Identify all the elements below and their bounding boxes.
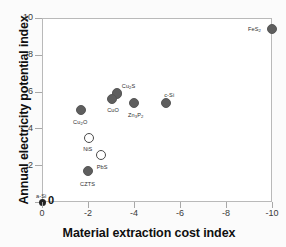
x-tick-label-m6: -6	[166, 208, 194, 218]
x-tick-label-m10: -10	[258, 208, 286, 218]
data-point-nis[interactable]	[84, 133, 94, 143]
x-tick-label-0: 0	[28, 208, 56, 218]
data-point-fes2[interactable]	[267, 24, 277, 34]
data-point-label-cu2s: Cu2S	[122, 83, 136, 89]
x-tick-label-m2: -2	[74, 208, 102, 218]
data-point-c-si[interactable]	[161, 98, 171, 108]
data-point-czts[interactable]	[83, 166, 93, 176]
y-tick-mark	[35, 55, 42, 56]
data-point-label-a-si: a-Si	[36, 193, 46, 199]
y-tick-mark	[35, 18, 42, 19]
data-point-zn3p2[interactable]	[129, 98, 139, 108]
x-tick-label-m4: -4	[120, 208, 148, 218]
y-tick-mark	[35, 128, 42, 129]
y-tick-mark	[35, 165, 42, 166]
y-axis-title: Annual electricity potential index	[17, 10, 31, 210]
x-axis-title: Material extraction cost index	[18, 226, 280, 240]
data-point-label-cu2o: Cu2O	[73, 119, 87, 125]
y-tick-label-6: 6	[9, 86, 33, 96]
origin-zero-label: 0	[48, 194, 54, 206]
y-tick-label-10: 10	[9, 12, 33, 22]
data-point-label-cuo: CuO	[107, 107, 119, 113]
y-tick-label-2: 2	[9, 160, 33, 170]
data-point-label-fes2: FeS2	[248, 26, 261, 32]
data-point-label-zn3p2: Zn3P2	[128, 112, 143, 118]
data-point-label-nis: NiS	[83, 146, 92, 152]
y-tick-label-4: 4	[9, 123, 33, 133]
data-point-label-c-si: c-Si	[164, 92, 174, 98]
y-tick-mark	[35, 92, 42, 93]
data-point-label-czts: CZTS	[80, 181, 95, 187]
x-tick-label-m8: -8	[212, 208, 240, 218]
scatter-chart-figure: Annual electricity potential index Mater…	[0, 0, 286, 247]
data-point-label-pbs: PbS	[97, 164, 108, 170]
data-point-pbs[interactable]	[96, 150, 106, 160]
y-tick-label-8: 8	[9, 49, 33, 59]
